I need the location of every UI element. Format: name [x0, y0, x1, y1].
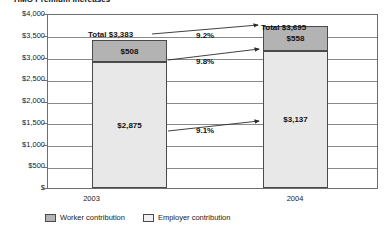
bar-segment-employer-2004[interactable]: $3,137: [263, 51, 328, 188]
legend-label-employer: Employer contribution: [158, 213, 231, 222]
y-tick-label: $1,000: [1, 141, 45, 149]
plot-area: $2,875 $508 $3,137 $558 Total $3,383 Tot…: [47, 14, 378, 189]
pct-label-total-growth: 9.2%: [196, 31, 214, 40]
y-tick-label: $1,500: [1, 119, 45, 127]
y-axis: $4,000 $3,500 $3,000 $2,500 $2,000 $1,50…: [0, 14, 45, 189]
bar-segment-worker-2003[interactable]: $508: [92, 40, 167, 62]
y-tick-label: $2,000: [1, 97, 45, 105]
total-label-2004: Total $3,695: [261, 23, 306, 32]
bar-value-employer-2003: $2,875: [117, 121, 141, 130]
employer-swatch-icon: [143, 214, 154, 222]
bar-value-employer-2004: $3,137: [283, 115, 307, 124]
chart-container: HMO Premium Increases $4,000 $3,500 $3,0…: [0, 0, 387, 234]
y-tick-label: $4,000: [1, 10, 45, 18]
chart-title: HMO Premium Increases: [14, 0, 110, 4]
bar-value-worker-2004: $558: [287, 34, 305, 43]
bar-segment-employer-2003[interactable]: $2,875: [92, 62, 167, 188]
pct-label-employer-growth: 9.1%: [196, 126, 214, 135]
x-tick-label-2003: 2003: [54, 194, 129, 203]
worker-swatch-icon: [45, 214, 56, 222]
legend-item-employer[interactable]: Employer contribution: [143, 213, 231, 222]
y-tick-label: $3,000: [1, 54, 45, 62]
y-tick-label: $2,500: [1, 75, 45, 83]
y-tick-label: $500: [1, 162, 45, 170]
legend-label-worker: Worker contribution: [60, 213, 125, 222]
x-tick-label-2004: 2004: [262, 194, 328, 203]
legend-item-worker[interactable]: Worker contribution: [45, 213, 125, 222]
pct-label-worker-growth: 9.8%: [196, 57, 214, 66]
y-tick-label: $3,500: [1, 32, 45, 40]
bar-2004[interactable]: $3,137 $558: [263, 26, 328, 188]
chart-legend: Worker contribution Employer contributio…: [45, 213, 230, 222]
total-label-2003: Total $3,383: [88, 30, 133, 39]
bar-value-worker-2003: $508: [121, 47, 139, 56]
bar-2003[interactable]: $2,875 $508: [92, 40, 167, 188]
y-tick-label: $: [1, 184, 45, 192]
